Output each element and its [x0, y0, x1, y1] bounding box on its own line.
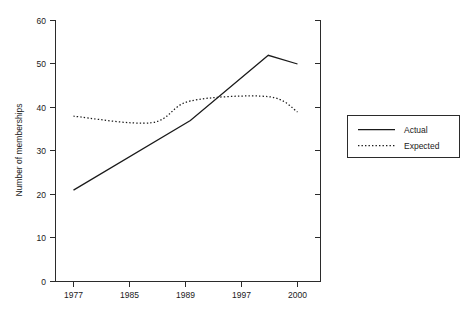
line-chart-canvas: 60 50 40 30 20 10 0 Number of membership… — [0, 0, 464, 313]
y-tick-label-50: 50 — [37, 59, 47, 69]
chart-figure: 60 50 40 30 20 10 0 Number of membership… — [0, 0, 464, 313]
y-tick-label-10: 10 — [37, 233, 47, 243]
legend-border — [348, 116, 460, 158]
x-tick-label-1989: 1989 — [176, 290, 195, 300]
y-tick-label-0: 0 — [41, 277, 46, 287]
chart-legend: Actual Expected — [348, 116, 460, 158]
y-axis-title: Number of memberships — [14, 103, 24, 196]
y-tick-label-40: 40 — [37, 103, 47, 113]
x-tick-label-1977: 1977 — [64, 290, 83, 300]
x-tick-label-2000: 2000 — [288, 290, 307, 300]
y-tick-label-30: 30 — [37, 146, 47, 156]
legend-label-actual: Actual — [404, 125, 428, 135]
x-tick-label-1985: 1985 — [120, 290, 139, 300]
x-tick-label-1997: 1997 — [232, 290, 251, 300]
y-tick-label-60: 60 — [37, 16, 47, 26]
legend-label-expected: Expected — [404, 141, 440, 151]
y-tick-label-20: 20 — [37, 190, 47, 200]
